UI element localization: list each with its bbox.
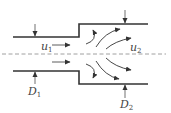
pipe-top-wall bbox=[13, 24, 148, 37]
d2-label: D2 bbox=[120, 99, 133, 113]
d1-label: D1 bbox=[28, 86, 41, 101]
eddy-arrow-top bbox=[86, 30, 94, 44]
eddy-arrow-bottom bbox=[86, 64, 94, 78]
u1-label: u1 bbox=[41, 41, 53, 56]
pipe-drawing bbox=[0, 0, 171, 113]
pipe-bottom-wall bbox=[13, 71, 148, 84]
u2-label: u2 bbox=[130, 42, 142, 57]
streamline-bottom-2 bbox=[106, 58, 131, 70]
sudden-expansion-diagram: u1 u2 D1 D2 bbox=[0, 0, 171, 113]
streamline-top-2 bbox=[106, 38, 131, 49]
streamline-top-1 bbox=[96, 29, 120, 47]
streamline-bottom-1 bbox=[96, 61, 119, 79]
